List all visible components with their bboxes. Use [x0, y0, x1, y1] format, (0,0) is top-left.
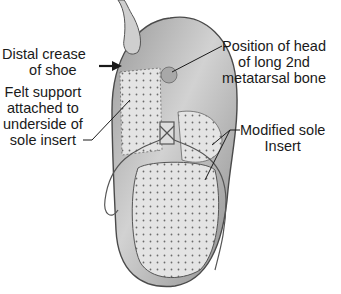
label-distal-crease: Distal crease of shoe	[2, 46, 86, 78]
metatarsal-head-marker	[161, 67, 177, 83]
label-modified-sole: Modified sole Insert	[240, 122, 325, 154]
finger	[118, 0, 141, 54]
label-felt-support: Felt support attached to underside of so…	[3, 84, 83, 148]
label-metatarsal-head: Position of head of long 2nd metatarsal …	[222, 38, 326, 86]
